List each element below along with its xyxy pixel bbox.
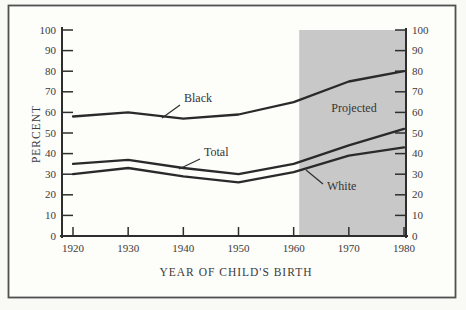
y-tick-label-left: 20	[45, 188, 57, 200]
black-line-label: Black	[184, 91, 212, 105]
y-tick-label-right: 70	[412, 85, 424, 97]
y-tick-label-left: 70	[45, 85, 57, 97]
y-tick-label-left: 0	[51, 230, 57, 242]
y-tick-label-left: 90	[45, 44, 57, 56]
total-line-label: Total	[204, 145, 229, 159]
y-tick-label-right: 100	[412, 24, 429, 36]
y-tick-label-left: 100	[40, 24, 57, 36]
x-tick-label: 1930	[117, 242, 140, 254]
y-tick-label-left: 80	[45, 65, 57, 77]
y-tick-label-right: 60	[412, 106, 424, 118]
x-tick-label: 1960	[283, 242, 306, 254]
figure-page: 0010102020303040405050606070708080909010…	[0, 0, 466, 310]
x-tick-label: 1950	[228, 242, 251, 254]
projected-label: Projected	[331, 101, 376, 115]
y-axis-title: PERCENT	[30, 105, 42, 163]
y-tick-label-right: 10	[412, 209, 424, 221]
x-axis-title: YEAR OF CHILD'S BIRTH	[159, 266, 312, 278]
y-tick-label-left: 10	[45, 209, 57, 221]
y-tick-label-left: 40	[45, 147, 57, 159]
y-tick-label-right: 40	[412, 147, 424, 159]
white-line-label: White	[327, 179, 356, 193]
y-tick-label-left: 50	[45, 127, 57, 139]
x-tick-label: 1920	[62, 242, 85, 254]
y-tick-label-right: 30	[412, 168, 424, 180]
x-tick-label: 1940	[172, 242, 195, 254]
y-tick-label-left: 60	[45, 106, 57, 118]
y-tick-label-left: 30	[45, 168, 57, 180]
chart-figure: 0010102020303040405050606070708080909010…	[0, 0, 466, 310]
x-tick-label: 1970	[338, 242, 361, 254]
y-tick-label-right: 0	[412, 230, 418, 242]
y-tick-label-right: 20	[412, 188, 424, 200]
y-tick-label-right: 90	[412, 44, 424, 56]
x-tick-label: 1980	[393, 242, 416, 254]
y-tick-label-right: 80	[412, 65, 424, 77]
y-tick-label-right: 50	[412, 127, 424, 139]
